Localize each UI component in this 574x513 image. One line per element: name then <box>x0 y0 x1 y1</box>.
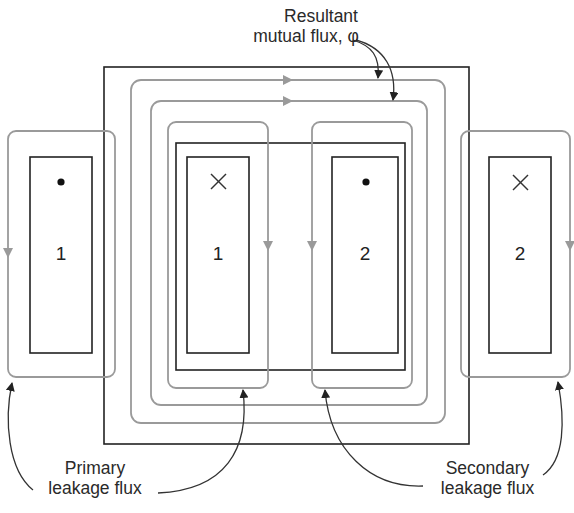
secondary-leakage-label: Secondary leakage flux <box>420 458 555 498</box>
dot-polarity-icon <box>362 178 369 185</box>
mutual-flux-label-line2: mutual flux, φ <box>246 26 366 46</box>
mutual-flux-label-line1: Resultant <box>246 6 366 26</box>
dot-polarity-icon <box>57 178 64 185</box>
secondary-leakage-label-line1: Secondary <box>420 458 555 478</box>
mutual-flux-label: Resultant mutual flux, φ <box>246 6 366 46</box>
secondary-leakage-label-line2: leakage flux <box>420 478 555 498</box>
coil-number-primary-outer: 1 <box>46 243 76 265</box>
primary-leakage-label-line2: leakage flux <box>30 478 160 498</box>
coil-number-primary-inner: 1 <box>203 243 233 265</box>
coils <box>30 157 551 353</box>
coil-number-secondary-inner: 2 <box>350 243 380 265</box>
mutual-flux-pointer-inner <box>356 40 394 100</box>
primary-leakage-label: Primary leakage flux <box>30 458 160 498</box>
transformer-core <box>104 67 469 444</box>
coil-number-secondary-outer: 2 <box>505 243 535 265</box>
transformer-diagram <box>0 0 574 513</box>
primary-leakage-label-line1: Primary <box>30 458 160 478</box>
core-outer-boundary <box>104 67 469 444</box>
